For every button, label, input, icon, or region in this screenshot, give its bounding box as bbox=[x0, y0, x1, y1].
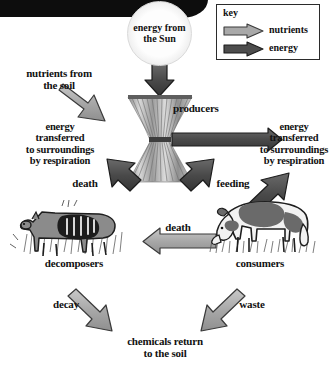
nutrients-arrow-icon bbox=[223, 23, 265, 39]
decomposers-carcass-icon bbox=[10, 200, 122, 256]
label-consumers: consumers bbox=[216, 258, 304, 270]
label-producers: producers bbox=[173, 103, 237, 115]
label-respiration-right: energy transferred to surroundings by re… bbox=[259, 121, 329, 166]
key-legend: key nutrients energy bbox=[216, 4, 320, 60]
label-decay: decay bbox=[40, 299, 92, 311]
label-respiration-left: energy transferred to surroundings by re… bbox=[6, 121, 114, 166]
label-chemicals-return: chemicals return to the soil bbox=[80, 336, 250, 360]
label-nutrients-from-soil: nutrients from the soil bbox=[4, 68, 114, 92]
key-label-energy: energy bbox=[269, 42, 298, 53]
label-death-middle: death bbox=[152, 222, 204, 234]
label-feeding: feeding bbox=[205, 178, 261, 190]
label-decomposers: decomposers bbox=[27, 258, 121, 270]
sun-label: energy from the Sun bbox=[128, 23, 191, 44]
arrow-sun-to-producers bbox=[145, 64, 174, 96]
key-title: key bbox=[223, 7, 238, 18]
sun-icon: energy from the Sun bbox=[127, 1, 192, 66]
consumers-cow-icon bbox=[210, 202, 315, 253]
ecosystem-energy-flow-diagram: energy from the Sun key nutrients energy… bbox=[0, 0, 329, 369]
label-waste: waste bbox=[226, 299, 278, 311]
key-label-nutrients: nutrients bbox=[269, 24, 308, 35]
label-death-left: death bbox=[60, 178, 110, 190]
energy-arrow-icon bbox=[223, 41, 265, 57]
